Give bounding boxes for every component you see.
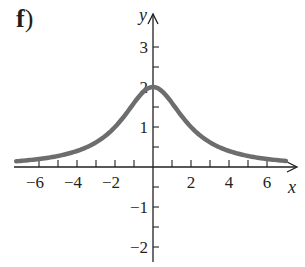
y-axis-label: y [137,5,147,25]
curve-f [16,87,286,161]
x-axis-label: x [287,177,296,197]
y-tick-label: 1 [140,118,149,137]
x-tick-label: 6 [263,173,272,192]
y-tick-label: 3 [140,38,149,57]
x-tick-label: −6 [26,173,44,192]
y-tick-label: −1 [130,198,148,217]
x-tick-label: 4 [225,173,234,192]
chart: −6−4−2246321−1−2xy [0,0,305,267]
x-tick-label: −2 [102,173,120,192]
x-tick-label: −4 [64,173,83,192]
x-tick-label: 2 [187,173,196,192]
y-tick-label: −2 [130,238,148,257]
